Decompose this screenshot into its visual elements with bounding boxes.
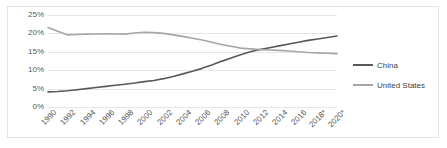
legend-item[interactable]: United States bbox=[353, 77, 441, 93]
y-axis-tick-label: 15% bbox=[12, 48, 44, 56]
x-axis: 1990199219941996199820002002200420062008… bbox=[48, 108, 337, 140]
y-axis-tick-label: 10% bbox=[12, 66, 44, 74]
plot-area bbox=[48, 15, 337, 107]
y-axis: 0%5%10%15%20%25% bbox=[8, 15, 44, 107]
legend-item-label: China bbox=[377, 61, 398, 70]
legend-item[interactable]: China bbox=[353, 57, 441, 73]
y-axis-tick-label: 0% bbox=[12, 103, 44, 111]
y-axis-tick-label: 20% bbox=[12, 29, 44, 37]
chart-lines bbox=[48, 15, 337, 107]
legend-swatch-icon bbox=[353, 64, 373, 66]
y-axis-tick-label: 25% bbox=[12, 11, 44, 19]
legend-swatch-icon bbox=[353, 84, 373, 86]
series-line bbox=[48, 36, 337, 92]
chart-legend: ChinaUnited States bbox=[353, 57, 441, 97]
y-axis-tick-label: 5% bbox=[12, 85, 44, 93]
series-line bbox=[48, 28, 337, 54]
chart-figure: 0%5%10%15%20%25% 19901992199419961998200… bbox=[7, 6, 439, 138]
legend-item-label: United States bbox=[377, 81, 425, 90]
